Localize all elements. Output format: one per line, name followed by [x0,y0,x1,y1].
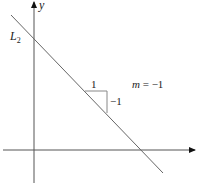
slope-var: m [132,78,140,90]
line-label: L2 [9,29,21,45]
run-label: 1 [91,78,97,90]
slope-annotation: m = −1 [132,78,163,90]
slope-eq: = −1 [140,78,163,90]
y-axis-label: y [38,0,45,12]
rise-label: −1 [110,95,122,107]
line-label-sub: 2 [17,36,21,45]
slope-diagram: y L2 1 −1 m = −1 [0,0,198,188]
